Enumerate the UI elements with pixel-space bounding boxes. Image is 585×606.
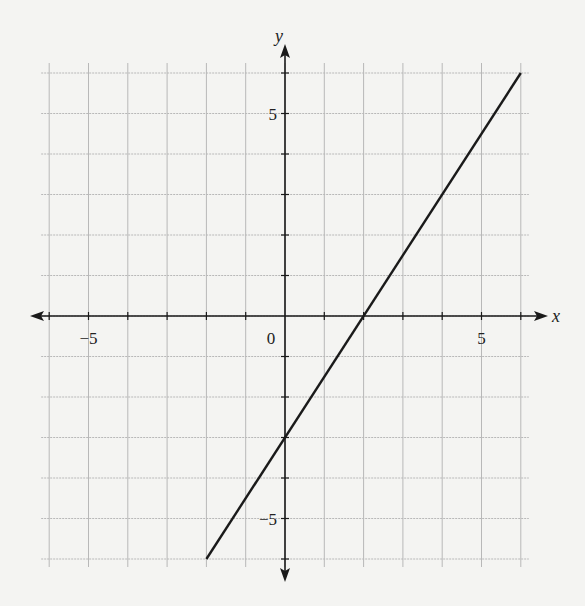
y-tick-label: 5 xyxy=(269,105,278,124)
x-tick-label: 5 xyxy=(477,329,486,348)
axes xyxy=(30,44,548,582)
x-axis-label: x xyxy=(551,306,560,326)
x-tick-label: 0 xyxy=(267,329,276,348)
line-graph: −5055−5xy xyxy=(0,0,585,606)
y-axis-label: y xyxy=(273,26,283,46)
x-tick-label: −5 xyxy=(79,329,97,348)
axis-labels: −5055−5xy xyxy=(79,26,560,529)
y-tick-label: −5 xyxy=(259,510,277,529)
